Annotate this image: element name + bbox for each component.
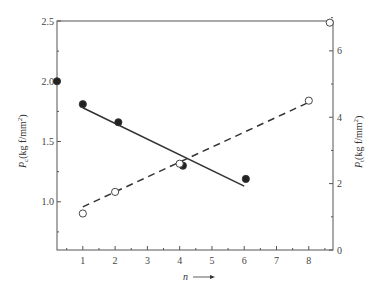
pt-data-point (326, 19, 333, 26)
left-y-tick-label: 2.5 (42, 16, 55, 27)
svg-text:Pt(kg f/mm2): Pt(kg f/mm2) (352, 116, 366, 169)
right-axis-units: (kg f/mm (353, 122, 365, 160)
left-y-axis-ticks: 1.01.52.02.5 (42, 16, 62, 232)
left-y-tick-label: 2.0 (42, 76, 55, 87)
x-tick-label: 6 (242, 255, 247, 266)
svg-text:Pc(kg f/mm2): Pc(kg f/mm2) (16, 114, 30, 169)
right-axis-symbol: P (353, 162, 364, 169)
left-y-tick-label: 1.5 (42, 136, 55, 147)
plot-frame (57, 21, 333, 250)
right-y-axis-ticks: 0246 (329, 18, 342, 256)
pc-fit-line (83, 108, 244, 186)
left-axis-symbol: P (17, 162, 28, 169)
x-axis-label: n (183, 271, 188, 282)
left-y-tick-label: 1.0 (42, 196, 55, 207)
right-y-tick-label: 2 (337, 178, 342, 189)
pc-data-point (115, 119, 122, 126)
pc-data-point (242, 175, 249, 182)
pc-data-point (79, 101, 86, 108)
arrow-head-icon (210, 275, 215, 279)
left-axis-close: ) (17, 114, 29, 117)
pt-data-point (305, 97, 312, 104)
x-tick-label: 4 (177, 255, 182, 266)
x-axis-ticks: 12345678 (67, 246, 325, 266)
right-axis-close: ) (353, 116, 365, 119)
right-y-axis-title: Pt(kg f/mm2) (352, 116, 366, 169)
right-y-tick-label: 4 (337, 112, 342, 123)
x-tick-label: 1 (80, 255, 85, 266)
left-y-axis-title: Pc(kg f/mm2) (16, 114, 30, 169)
x-tick-label: 7 (274, 255, 279, 266)
right-y-tick-label: 0 (337, 245, 342, 256)
pc-data-point (53, 78, 60, 85)
pt-data-point (112, 188, 119, 195)
x-tick-label: 3 (145, 255, 150, 266)
right-y-tick-label: 6 (337, 45, 342, 56)
x-tick-label: 8 (306, 255, 311, 266)
left-axis-units: (kg f/mm (17, 121, 29, 159)
chart: 12345678 1.01.52.02.5 0246 n Pc(kg f/mm2… (0, 0, 379, 291)
pt-data-point (79, 210, 86, 217)
x-axis-title: n (183, 271, 215, 282)
pt-data-point (176, 160, 183, 167)
data-points (53, 19, 333, 217)
x-tick-label: 2 (113, 255, 118, 266)
x-tick-label: 5 (209, 255, 214, 266)
